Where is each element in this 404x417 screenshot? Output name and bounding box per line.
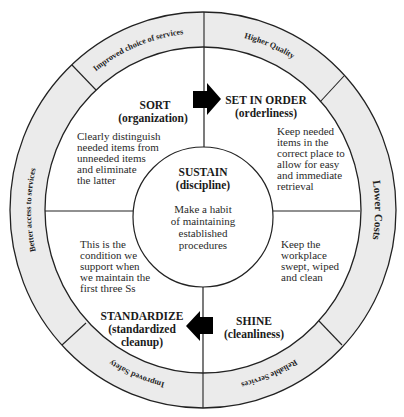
center-subtitle: (discipline) <box>176 179 230 192</box>
center-desc-line: Make a habit <box>174 203 231 215</box>
standardize-subtitle-line: cleanup) <box>121 336 163 349</box>
set-in-order-subtitle: (orderliness) <box>235 107 297 120</box>
sort-subtitle: (organization) <box>118 112 188 125</box>
standardize-title: STANDARDIZE <box>101 310 184 322</box>
set-in-order-title: SET IN ORDER <box>225 94 307 106</box>
shine-desc-line: and clean <box>281 271 323 283</box>
center-sustain: SUSTAIN (discipline) Make a habit of mai… <box>133 147 273 287</box>
5s-cycle-diagram: Improved choice of services Higher Quali… <box>0 0 404 417</box>
set-in-order-desc-line: retrieval <box>277 180 314 192</box>
center-desc-line: procedures <box>179 239 227 251</box>
sort-title: SORT <box>140 99 171 111</box>
standardize-subtitle-line: (standardized <box>108 323 176 336</box>
shine-title: SHINE <box>236 315 272 327</box>
sort-desc-line: the latter <box>77 174 116 186</box>
center-desc-line: of maintaining <box>171 215 236 227</box>
shine-subtitle: (cleanliness) <box>224 328 284 341</box>
center-title: SUSTAIN <box>179 166 229 178</box>
standardize-desc-line: first three Ss <box>80 282 136 294</box>
center-desc-line: established <box>179 227 228 239</box>
